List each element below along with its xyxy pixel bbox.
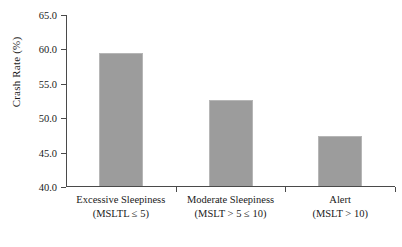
bar bbox=[318, 136, 362, 186]
y-tick-label: 55.0 bbox=[39, 78, 57, 89]
bar bbox=[99, 53, 143, 186]
y-tick bbox=[61, 84, 66, 85]
y-tick-label: 60.0 bbox=[39, 44, 57, 55]
x-category-label-line1: Alert bbox=[329, 194, 351, 205]
plot-area: 40.045.050.055.060.065.0 bbox=[66, 15, 395, 187]
x-tick bbox=[285, 187, 286, 192]
y-axis-line bbox=[66, 15, 67, 187]
y-tick bbox=[61, 187, 66, 188]
x-category-label-line1: Moderate Sleepiness bbox=[187, 194, 274, 205]
y-tick bbox=[61, 153, 66, 154]
y-axis-title: Crash Rate (%) bbox=[10, 12, 22, 132]
x-category-label: Alert(MSLT > 10) bbox=[267, 193, 402, 221]
x-axis-line bbox=[66, 186, 395, 187]
y-tick bbox=[61, 49, 66, 50]
y-tick-label: 45.0 bbox=[39, 147, 57, 158]
bar-chart: Crash Rate (%) 40.045.050.055.060.065.0 … bbox=[0, 0, 402, 247]
bar bbox=[209, 100, 253, 186]
y-tick bbox=[61, 118, 66, 119]
y-tick-label: 65.0 bbox=[39, 10, 57, 21]
x-tick bbox=[395, 187, 396, 192]
x-category-label-line1: Excessive Sleepiness bbox=[76, 194, 165, 205]
y-tick bbox=[61, 15, 66, 16]
y-tick-label: 50.0 bbox=[39, 113, 57, 124]
x-tick bbox=[176, 187, 177, 192]
x-category-label-line2: (MSLT > 10) bbox=[267, 207, 402, 221]
y-tick-label: 40.0 bbox=[39, 182, 57, 193]
